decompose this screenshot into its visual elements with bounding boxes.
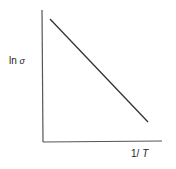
y-axis: [42, 10, 43, 142]
y-axis-label: ln σ: [9, 55, 26, 66]
chart: ln σ 1/ T: [0, 0, 176, 169]
data-line: [50, 19, 148, 122]
x-axis-label: 1/ T: [131, 148, 149, 159]
x-axis: [43, 141, 162, 142]
